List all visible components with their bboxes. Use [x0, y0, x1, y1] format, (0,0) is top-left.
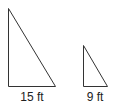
- small-right-triangle: [84, 46, 108, 87]
- small-triangle-base-label: 9 ft: [87, 91, 104, 103]
- large-right-triangle: [9, 9, 56, 87]
- large-triangle-base-label: 15 ft: [20, 91, 43, 103]
